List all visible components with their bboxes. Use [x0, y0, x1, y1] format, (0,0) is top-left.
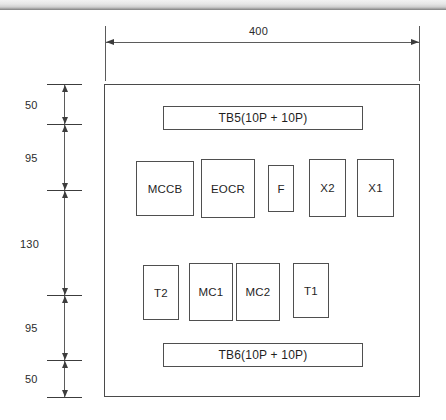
- component-mc2[interactable]: MC2: [236, 263, 280, 321]
- component-eocr[interactable]: EOCR: [201, 159, 255, 218]
- width-extension-line-right: [419, 26, 420, 81]
- height-arrow-up-5-icon: [62, 361, 68, 368]
- height-arrow-up-1-icon: [62, 85, 68, 92]
- component-f[interactable]: F: [268, 165, 294, 212]
- height-arrow-up-3-icon: [62, 191, 68, 198]
- width-arrow-left-icon: [106, 39, 114, 45]
- height-dimension-label-4: 95: [25, 322, 38, 334]
- scan-artifact-line: [0, 9, 446, 10]
- height-segment-line-4: [64, 296, 65, 360]
- panel-enclosure: TB5(10P + 10P) MCCB EOCR F X2 X1 T2 MC1 …: [104, 84, 420, 397]
- component-tb6[interactable]: TB6(10P + 10P): [163, 343, 363, 367]
- width-extension-line-left: [105, 26, 106, 81]
- height-segment-line-2: [64, 125, 65, 190]
- width-dimension-label: 400: [249, 25, 268, 37]
- component-tb5[interactable]: TB5(10P + 10P): [163, 106, 363, 130]
- height-segment-line-3: [64, 191, 65, 295]
- height-arrow-down-3-icon: [62, 288, 68, 295]
- height-arrow-down-5-icon: [62, 390, 68, 397]
- component-x1[interactable]: X1: [357, 159, 394, 217]
- height-tick-5: [47, 397, 82, 398]
- component-x2[interactable]: X2: [309, 159, 346, 217]
- height-dimension-label-2: 95: [25, 152, 38, 164]
- height-arrow-down-4-icon: [62, 353, 68, 360]
- height-arrow-down-2-icon: [62, 183, 68, 190]
- height-dimension-label-5: 50: [25, 373, 38, 385]
- drawing-canvas: 400 50 95 130 95 50: [0, 0, 446, 420]
- height-arrow-up-2-icon: [62, 125, 68, 132]
- width-dimension-line: [106, 42, 419, 43]
- component-mc1[interactable]: MC1: [189, 263, 233, 321]
- component-mccb[interactable]: MCCB: [136, 161, 194, 216]
- component-t2[interactable]: T2: [143, 265, 179, 320]
- height-dimension-label-1: 50: [25, 99, 38, 111]
- component-t1[interactable]: T1: [293, 263, 329, 318]
- height-dimension-label-3: 130: [20, 238, 39, 250]
- height-arrow-down-1-icon: [62, 117, 68, 124]
- height-arrow-up-4-icon: [62, 296, 68, 303]
- scan-artifact-band: [0, 0, 446, 9]
- width-arrow-right-icon: [411, 39, 419, 45]
